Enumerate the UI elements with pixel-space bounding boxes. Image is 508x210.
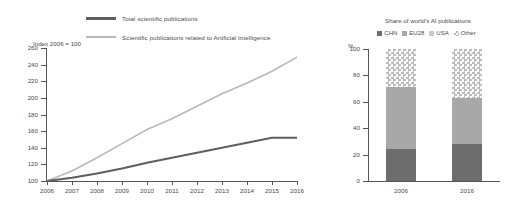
bar-y-axis-line bbox=[368, 49, 369, 181]
y-axis-title: Index 2006 = 100 bbox=[33, 40, 81, 47]
legend-swatch-eu28-icon bbox=[402, 31, 407, 36]
legend-swatch-usa-icon bbox=[429, 31, 434, 36]
bar-y-tick-label: 0 bbox=[335, 177, 360, 184]
legend-item-usa: USA bbox=[429, 30, 448, 36]
legend-item-chn: CHN bbox=[377, 30, 397, 36]
y-tick-label: 100 bbox=[8, 177, 38, 184]
legend-label-total: Total scientific publications bbox=[122, 15, 198, 22]
bar-segment-eu28 bbox=[386, 87, 416, 149]
legend-item-other: Other bbox=[454, 30, 476, 36]
bar-segment-chn bbox=[452, 144, 482, 181]
bar-segment-other bbox=[452, 49, 482, 98]
bar-chart-legend: CHN EU28 USA Other bbox=[344, 30, 508, 36]
bar-y-tick-label: 40 bbox=[335, 124, 360, 131]
y-tick-label: 200 bbox=[8, 94, 38, 101]
x-tick bbox=[247, 181, 248, 185]
x-tick bbox=[172, 181, 173, 185]
y-tick bbox=[41, 48, 46, 49]
legend-item-eu28: EU28 bbox=[402, 30, 424, 36]
bar-y-tick bbox=[363, 75, 368, 76]
stacked-bar-panel: Share of world's AI publications CHN EU2… bbox=[330, 0, 508, 210]
y-tick bbox=[41, 115, 46, 116]
y-tick-label: 240 bbox=[8, 61, 38, 68]
x-tick bbox=[147, 181, 148, 185]
bar-y-tick bbox=[363, 155, 368, 156]
bar-segment-other bbox=[386, 49, 416, 87]
x-tick bbox=[222, 181, 223, 185]
legend-label-usa: USA bbox=[436, 30, 448, 36]
legend-label-eu28: EU28 bbox=[409, 30, 424, 36]
y-tick-label: 120 bbox=[8, 160, 38, 167]
line-ai bbox=[47, 57, 297, 181]
y-tick bbox=[41, 148, 46, 149]
legend-label-ai: Scientific publications related to Artif… bbox=[122, 34, 271, 41]
line-series-group bbox=[47, 48, 297, 181]
y-tick-label: 180 bbox=[8, 111, 38, 118]
bar-y-tick-label: 60 bbox=[335, 98, 360, 105]
legend-line-icon-ai bbox=[86, 36, 116, 38]
bar-y-tick-label: 100 bbox=[335, 45, 360, 52]
y-tick-label: 220 bbox=[8, 77, 38, 84]
bar-segment-chn bbox=[386, 149, 416, 181]
bar-y-tick bbox=[363, 102, 368, 103]
y-tick bbox=[41, 65, 46, 66]
x-tick bbox=[272, 181, 273, 185]
y-tick-label: 140 bbox=[8, 144, 38, 151]
x-tick bbox=[122, 181, 123, 185]
x-tick bbox=[72, 181, 73, 185]
bar-y-tick-label: 80 bbox=[335, 71, 360, 78]
x-tick bbox=[197, 181, 198, 185]
stacked-bar bbox=[386, 49, 416, 181]
bar-x-tick-label: 2006 bbox=[381, 187, 421, 194]
x-tick bbox=[297, 181, 298, 185]
legend-swatch-other-icon bbox=[454, 31, 459, 36]
line-total bbox=[47, 138, 297, 181]
legend-label-other: Other bbox=[461, 30, 476, 36]
legend-item-total: Total scientific publications bbox=[86, 12, 316, 24]
bar-y-tick bbox=[363, 128, 368, 129]
bar-x-tick-label: 2016 bbox=[447, 187, 487, 194]
y-tick bbox=[41, 131, 46, 132]
y-tick bbox=[41, 98, 46, 99]
bar-chart-title: Share of world's AI publications bbox=[348, 17, 508, 24]
legend-swatch-chn-icon bbox=[377, 31, 382, 36]
legend-label-chn: CHN bbox=[384, 30, 397, 36]
y-tick bbox=[41, 81, 46, 82]
bar-y-tick-label: 20 bbox=[335, 151, 360, 158]
line-chart-legend: Total scientific publications Scientific… bbox=[86, 12, 316, 50]
y-tick-label: 160 bbox=[8, 127, 38, 134]
bar-x-axis-line bbox=[368, 181, 500, 182]
y-tick bbox=[41, 164, 46, 165]
stacked-bar bbox=[452, 49, 482, 181]
y-tick-label: 260 bbox=[8, 44, 38, 51]
y-tick bbox=[41, 181, 46, 182]
bar-y-tick bbox=[363, 49, 368, 50]
bar-segment-eu28 bbox=[452, 98, 482, 144]
legend-line-icon-total bbox=[86, 17, 116, 20]
legend-item-ai: Scientific publications related to Artif… bbox=[86, 31, 316, 43]
x-tick bbox=[97, 181, 98, 185]
bar-y-tick bbox=[363, 181, 368, 182]
line-chart-panel: Total scientific publications Scientific… bbox=[0, 0, 320, 210]
x-tick-label: 2016 bbox=[280, 187, 314, 194]
